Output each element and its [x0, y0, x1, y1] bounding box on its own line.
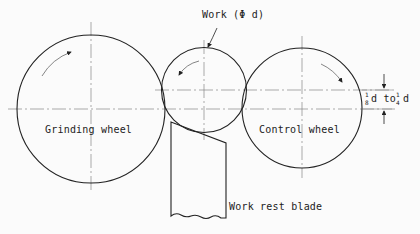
- grinding-wheel-rotation-arrow-icon: [42, 52, 71, 76]
- work-leader-arrow-icon: [208, 28, 217, 47]
- offset-mid-text: d to: [371, 93, 396, 104]
- work-rest-blade: [171, 122, 226, 219]
- control-wheel-label: Control wheel: [259, 124, 340, 135]
- offset-fraction-denominator-4: 4: [396, 100, 400, 106]
- work-rest-blade-label: Work rest blade: [229, 201, 322, 212]
- offset-fraction-numerator-1b: 1: [396, 92, 400, 98]
- offset-fraction-denominator-8: 8: [365, 100, 369, 106]
- grinding-wheel-label: Grinding wheel: [45, 124, 132, 135]
- centerless-grinding-diagram: Work (Φ d) Grinding wheel Control wheel …: [0, 0, 420, 234]
- control-wheel-rotation-arrow-icon: [321, 64, 342, 82]
- work-label: Work (Φ d): [202, 9, 264, 20]
- diagram-drawing: [0, 0, 420, 234]
- offset-fraction-numerator-1: 1: [365, 92, 369, 98]
- offset-end-text: d: [403, 93, 409, 104]
- work-rotation-arrow-icon: [179, 61, 199, 75]
